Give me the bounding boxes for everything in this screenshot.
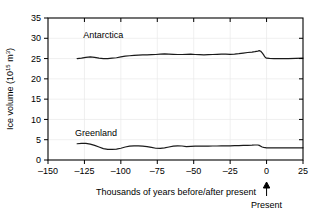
y-tick-label: 5: [36, 135, 41, 145]
y-tick-label: 0: [36, 155, 41, 165]
y-axis-title: Ice volume (1015 m3): [5, 48, 15, 130]
y-tick-label: 15: [31, 94, 41, 104]
series-label-greenland: Greenland: [75, 128, 117, 138]
y-tick-label: 20: [31, 74, 41, 84]
x-axis-title: Thousands of years before/after present: [96, 187, 257, 197]
x-tick-label: –50: [186, 166, 201, 176]
svg-text:Ice volume (1015 m3): Ice volume (1015 m3): [5, 48, 15, 130]
x-tick-label: –125: [74, 166, 94, 176]
y-tick-label: 35: [31, 13, 41, 23]
ice-volume-line-chart: –150–125–100–75–50–25025 05101520253035 …: [0, 0, 320, 218]
series-label-antarctica: Antarctica: [83, 30, 123, 40]
x-tick-label: –25: [223, 166, 238, 176]
x-tick-label: 0: [264, 166, 269, 176]
y-axis-title-suffix: m: [5, 54, 15, 64]
present-label: Present: [251, 200, 283, 210]
y-tick-label: 10: [31, 115, 41, 125]
y-tick-label: 25: [31, 54, 41, 64]
ice-volume-chart-figure: –150–125–100–75–50–25025 05101520253035 …: [0, 0, 320, 218]
y-axis-title-close: ): [5, 48, 15, 51]
x-tick-label: –150: [38, 166, 58, 176]
y-axis-title-prefix: Ice volume (10: [5, 71, 15, 130]
y-tick-label: 30: [31, 33, 41, 43]
x-tick-label: –100: [111, 166, 131, 176]
x-tick-label: 25: [298, 166, 308, 176]
x-tick-label: –75: [150, 166, 165, 176]
